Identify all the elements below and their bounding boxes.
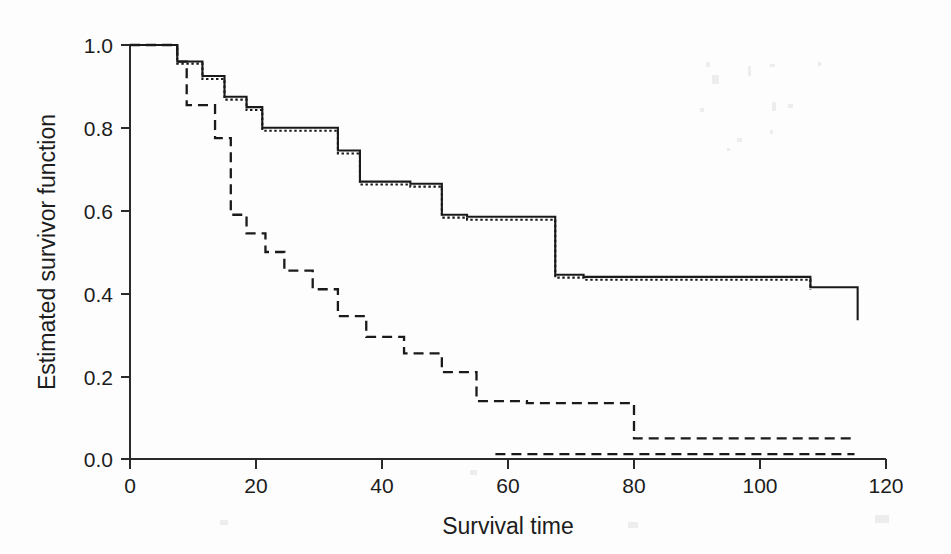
x-tick-label-100: 100 [742,474,777,497]
x-tick-label-120: 120 [868,474,903,497]
y-axis-title: Estimated survivor function [34,114,60,390]
y-tick-label-1.0: 1.0 [84,34,113,57]
x-tick-label-80: 80 [622,474,645,497]
y-tick-label-0.0: 0.0 [84,448,113,471]
x-axis-title: Survival time [442,513,574,539]
survivor-function-chart: 1.0 0.8 0.6 0.4 0.2 0.0 Estimated surviv… [0,0,951,554]
survival-curve-figure: 1.0 0.8 0.6 0.4 0.2 0.0 Estimated surviv… [0,0,951,554]
y-tick-label-0.2: 0.2 [84,366,113,389]
solid-survivor-curve [130,45,858,320]
x-axis: 0 20 40 60 80 100 120 Survival time [124,459,903,539]
x-tick-label-60: 60 [496,474,519,497]
dotted-survivor-curve [130,45,810,290]
x-tick-label-20: 20 [244,474,267,497]
y-tick-label-0.4: 0.4 [84,283,114,306]
y-axis: 1.0 0.8 0.6 0.4 0.2 0.0 Estimated surviv… [34,34,130,471]
y-tick-label-0.6: 0.6 [84,200,113,223]
y-tick-label-0.8: 0.8 [84,117,113,140]
x-tick-label-40: 40 [370,474,393,497]
x-tick-label-0: 0 [124,474,136,497]
dashed-survivor-curve [130,45,855,440]
curves-group [130,45,858,454]
